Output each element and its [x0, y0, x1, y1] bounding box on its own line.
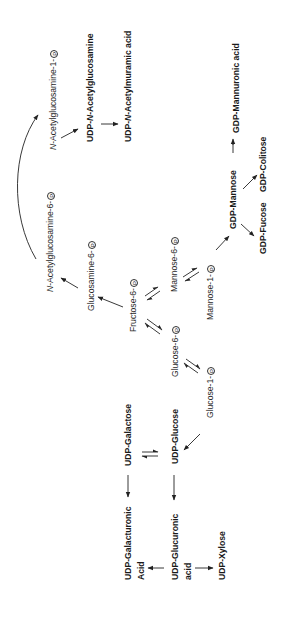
node-udp-galacturonic-acid-line2: Acid — [136, 561, 146, 580]
node-fructose-6-phosphate: Fructose-6-P — [128, 279, 138, 332]
phosphate-icon: P — [130, 279, 138, 287]
node-glucosamine-6-phosphate: Glucosamine-6-P — [86, 241, 96, 311]
node-glucose-1-phosphate: Glucose-1-P — [205, 367, 215, 418]
node-glucose-6-phosphate: Glucose-6-P — [170, 326, 180, 377]
node-n-acetylglucosamine-1-phosphate: N-Acetylglucosamine-1-P — [48, 50, 58, 150]
node-gdp-fucose: GDP-Fucose — [258, 202, 268, 254]
node-mannose-1-phosphate: Mannose-1-P — [205, 265, 215, 320]
node-mannose-6-phosphate: Mannose-6-P — [169, 237, 179, 292]
node-n-acetylglucosamine-6-phosphate: N-Acetylglucosamine-6-P — [45, 192, 55, 292]
phosphate-icon: P — [50, 50, 58, 58]
node-udp-xylose: UDP-Xylose — [217, 531, 227, 580]
phosphate-icon: P — [207, 367, 215, 375]
node-udp-galacturonic-acid: UDP-Galacturonic — [123, 506, 133, 580]
pathway-diagram: N-Acetylglucosamine-1-P UDP-N-Acetylgluc… — [0, 0, 281, 617]
node-udp-glucose: UDP-Glucose — [170, 409, 180, 464]
node-udp-n-acetylmuramic-acid: UDP-N-Acetylmuramic acid — [123, 31, 133, 142]
node-udp-galactose: UDP-Galactose — [123, 404, 133, 466]
phosphate-icon: P — [171, 237, 179, 245]
phosphate-icon: P — [47, 192, 55, 200]
node-gdp-mannuronic-acid: GDP-Mannuronic acid — [231, 43, 241, 133]
node-udp-glucuronic-acid-line2: acid — [183, 563, 193, 580]
phosphate-icon: P — [207, 265, 215, 273]
node-gdp-colitose: GDP-Colitose — [258, 137, 268, 192]
curved-arrow — [17, 115, 38, 259]
phosphate-icon: P — [172, 326, 180, 334]
phosphate-icon: P — [88, 241, 96, 249]
node-udp-glucuronic-acid: UDP-Glucuronic — [170, 514, 180, 580]
node-udp-n-acetylglucosamine: UDP-N-Acetylglucosamine — [85, 34, 95, 142]
node-gdp-mannose: GDP-Mannose — [228, 170, 238, 229]
